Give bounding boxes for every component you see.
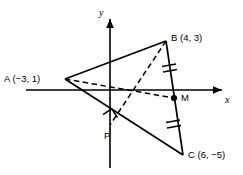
geometry-figure: A (−3, 1) B (4, 3) C (6, −5) M P x y [0, 0, 243, 175]
altitude-bp [110, 41, 166, 125]
label-point-b: B (4, 3) [171, 33, 202, 43]
x-axis [26, 86, 222, 94]
label-y-axis: y [99, 8, 103, 18]
label-point-a: A (−3, 1) [4, 74, 40, 84]
label-point-m: M [181, 93, 189, 103]
label-x-axis: x [225, 95, 229, 105]
median-am [65, 79, 174, 98]
triangle-abc [65, 41, 183, 155]
y-axis [106, 19, 114, 168]
point-m-dot-icon [171, 95, 177, 101]
label-point-c: C (6, −5) [188, 150, 225, 160]
label-point-p: P [104, 131, 110, 141]
segment-ab [65, 41, 166, 79]
